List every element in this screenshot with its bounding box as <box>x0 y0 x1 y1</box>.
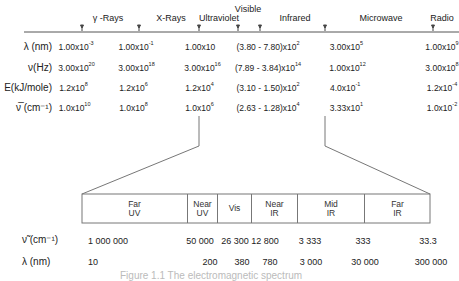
row-label: λ (nm) <box>24 41 52 52</box>
region-label: Infrared <box>279 13 310 23</box>
wavelength-value: 3 000 <box>300 257 323 267</box>
region-label: Radio <box>430 13 454 23</box>
tick-arrow-icon <box>324 25 327 28</box>
table-cell: 1.0x108 <box>119 103 148 113</box>
expanded-region-cell: FarUV <box>82 194 187 223</box>
table-cell: 3.00x1020 <box>58 63 94 73</box>
expanded-region-cell: Vis <box>217 194 251 223</box>
table-cell: 1.2x10-4 <box>427 83 457 93</box>
row-label: ν(Hz) <box>28 62 52 73</box>
table-cell: 3.00x105 <box>330 42 363 52</box>
wavenumber-value: 1 000 000 <box>88 236 128 246</box>
tick-arrow-icon <box>432 25 435 28</box>
wavelength-scale-label: λ (nm) <box>22 256 50 267</box>
table-cell: 1.2x108 <box>59 83 88 93</box>
wavenumber-value: 26 300 <box>221 236 249 246</box>
table-cell: 1.00x10 <box>185 42 215 52</box>
wavelength-value: 380 <box>234 257 249 267</box>
table-cell: (7.89 - 3.84)x1014 <box>235 63 301 73</box>
table-cell: 3.00x108 <box>425 63 458 73</box>
wavelength-value: 300 000 <box>415 257 448 267</box>
row-label: E(kJ/mole) <box>4 82 52 93</box>
table-cell: 1.2x104 <box>185 83 214 93</box>
region-label: γ -Rays <box>93 13 124 23</box>
region-label: Microwave <box>359 13 402 23</box>
table-cell: 1.0x10-2 <box>427 103 457 113</box>
table-cell: 1.0x1010 <box>59 103 91 113</box>
wavenumber-scale-label: ν̃ (cm⁻¹) <box>22 234 58 245</box>
wavelength-value: 10 <box>88 257 98 267</box>
expanded-region-cell: FarIR <box>364 194 430 223</box>
wavenumber-value: 3 333 <box>299 236 322 246</box>
wavenumber-value: 333 <box>355 236 370 246</box>
wavenumber-value: 33.3 <box>419 236 437 246</box>
row-label: ν̅ (cm⁻¹) <box>16 102 52 113</box>
table-cell: 1.00x1012 <box>329 63 365 73</box>
wavelength-value: 30 000 <box>351 257 379 267</box>
wavenumber-value: 50 000 <box>186 236 214 246</box>
wavelength-value: 780 <box>262 257 277 267</box>
expanded-region-cell: NearUV <box>187 194 217 223</box>
tick-arrow-icon <box>138 25 141 28</box>
region-label: X-Rays <box>156 13 186 23</box>
table-cell: 1.00x109 <box>425 42 458 52</box>
expanded-region-cell: MidIR <box>297 194 364 223</box>
table-cell: (3.10 - 1.50)x102 <box>236 83 299 93</box>
wavelength-value: 200 <box>202 257 217 267</box>
table-cell: (3.80 - 7.80)x102 <box>236 42 299 52</box>
table-cell: 3.00x1018 <box>118 63 154 73</box>
wavenumber-value: 12 800 <box>251 236 279 246</box>
table-cell: (2.63 - 1.28)x104 <box>236 103 299 113</box>
region-label: Ultraviolet <box>199 13 239 23</box>
table-cell: 4.0x10-1 <box>330 83 360 93</box>
figure-caption: Figure 1.1 The electromagnetic spectrum <box>120 270 302 281</box>
table-cell: 1.00x10-1 <box>118 42 153 52</box>
table-cell: 3.00x1016 <box>184 63 220 73</box>
tick-arrow-icon <box>259 25 262 28</box>
table-cell: 1.0x106 <box>185 103 214 113</box>
table-cell: 1.00x10-3 <box>58 42 93 52</box>
region-label: Visible <box>235 4 261 14</box>
tick-arrow-icon <box>81 25 84 28</box>
expanded-region-cell: NearIR <box>251 194 297 223</box>
table-cell: 3.33x101 <box>330 103 363 113</box>
table-cell: 1.2x106 <box>119 83 148 93</box>
tick-arrow-icon <box>198 25 201 28</box>
tick-arrow-icon <box>237 25 240 28</box>
